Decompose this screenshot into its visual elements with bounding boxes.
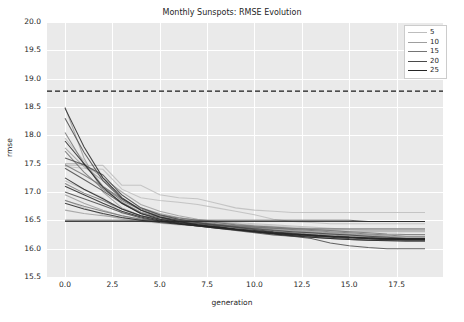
legend-color-swatch — [408, 51, 427, 52]
y-axis-label: rmse — [5, 123, 14, 173]
x-tick-label: 5.0 — [140, 281, 180, 289]
series-line — [65, 168, 425, 238]
x-tick-label: 12.5 — [282, 281, 322, 289]
plot-area — [47, 22, 443, 277]
x-tick-label: 15.0 — [329, 281, 369, 289]
y-tick-label: 20.0 — [0, 18, 41, 26]
legend-color-swatch — [408, 42, 427, 43]
y-tick-label: 18.5 — [0, 103, 41, 111]
y-tick-label: 17.0 — [0, 188, 41, 196]
chart-title: Monthly Sunspots: RMSE Evolution — [0, 8, 464, 17]
series-line — [65, 138, 425, 230]
legend-item[interactable]: 5 — [407, 28, 444, 38]
legend-item[interactable]: 20 — [407, 57, 444, 67]
y-tick-label: 16.0 — [0, 245, 41, 253]
legend-item[interactable]: 10 — [407, 38, 444, 48]
x-tick-label: 0.0 — [45, 281, 85, 289]
legend-item[interactable]: 15 — [407, 47, 444, 57]
chart-figure: Monthly Sunspots: RMSE Evolution 15.516.… — [0, 0, 464, 322]
legend-label: 20 — [430, 57, 439, 66]
x-axis-label: generation — [0, 298, 464, 307]
legend-color-swatch — [408, 61, 427, 62]
x-tick-label: 2.5 — [92, 281, 132, 289]
x-tick-label: 17.5 — [377, 281, 417, 289]
x-tick-label: 7.5 — [187, 281, 227, 289]
y-tick-label: 19.0 — [0, 75, 41, 83]
legend-label: 25 — [430, 66, 439, 75]
series-lines — [47, 22, 443, 277]
legend-color-swatch — [408, 70, 427, 71]
legend-label: 15 — [430, 47, 439, 56]
legend-color-swatch — [408, 32, 427, 33]
legend-label: 10 — [430, 38, 439, 47]
y-tick-label: 19.5 — [0, 46, 41, 54]
legend-item[interactable]: 25 — [407, 66, 444, 76]
x-tick-label: 10.0 — [234, 281, 274, 289]
legend[interactable]: 510152025 — [404, 25, 447, 79]
y-tick-label: 16.5 — [0, 216, 41, 224]
y-tick-label: 15.5 — [0, 273, 41, 281]
legend-label: 5 — [430, 28, 434, 37]
